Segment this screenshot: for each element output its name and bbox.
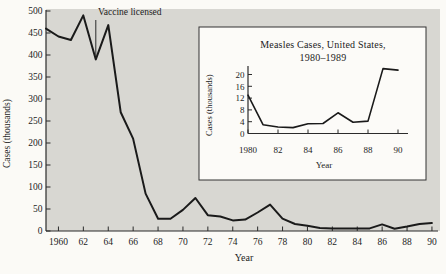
main-x-tick-label: 86	[377, 237, 387, 247]
inset-y-tick-label: 0	[240, 129, 245, 139]
inset-y-tick-label: 20	[236, 70, 246, 80]
main-y-tick-label: 200	[28, 138, 43, 148]
inset-x-tick-label: 88	[364, 145, 374, 155]
main-y-tick-label: 500	[28, 6, 43, 16]
main-y-tick-label: 100	[28, 182, 43, 192]
inset-y-axis-title: Cases (thousands)	[204, 74, 214, 136]
main-x-tick-label: 80	[303, 237, 313, 247]
inset-chart-subtitle: 1980–1989	[300, 52, 347, 63]
inset-x-tick-label: 1980	[239, 145, 258, 155]
main-y-tick-label: 300	[28, 94, 43, 104]
main-y-tick-label: 250	[28, 116, 43, 126]
main-y-tick-label: 450	[28, 28, 43, 38]
main-x-tick-label: 78	[278, 237, 288, 247]
main-x-tick-label: 68	[153, 237, 163, 247]
main-y-tick-label: 350	[28, 72, 43, 82]
main-x-tick-label: 90	[427, 237, 437, 247]
main-y-tick-label: 0	[38, 226, 43, 236]
measles-cases-figure: 1960626466687072747678808284868890050100…	[0, 0, 446, 274]
vaccine-licensed-annotation: Vaccine licensed	[98, 7, 162, 17]
main-x-tick-label: 88	[402, 237, 412, 247]
main-x-tick-label: 76	[253, 237, 263, 247]
inset-y-tick-label: 16	[236, 82, 246, 92]
main-y-axis-title: Cases (thousands)	[2, 99, 12, 168]
main-x-tick-label: 70	[178, 237, 188, 247]
main-x-tick-label: 74	[228, 237, 238, 247]
main-x-tick-label: 66	[128, 237, 138, 247]
main-y-tick-label: 150	[28, 160, 43, 170]
main-x-tick-label: 64	[104, 237, 114, 247]
inset-x-tick-label: 90	[394, 145, 404, 155]
inset-x-tick-label: 84	[304, 145, 314, 155]
inset-x-tick-label: 82	[274, 145, 283, 155]
main-y-tick-label: 400	[28, 50, 43, 60]
main-x-tick-label: 72	[203, 237, 213, 247]
main-x-axis-title: Year	[235, 252, 253, 263]
inset-x-tick-label: 86	[334, 145, 344, 155]
inset-y-tick-label: 8	[240, 105, 245, 115]
main-x-tick-label: 1960	[49, 237, 68, 247]
main-x-tick-label: 82	[328, 237, 338, 247]
inset-x-axis-title: Year	[316, 160, 333, 170]
main-x-tick-label: 62	[79, 237, 89, 247]
main-x-tick-label: 84	[353, 237, 363, 247]
inset-chart-title: Measles Cases, United States,	[260, 39, 386, 50]
inset-y-tick-label: 4	[240, 117, 245, 127]
inset-y-tick-label: 12	[236, 93, 245, 103]
main-y-tick-label: 50	[33, 204, 43, 214]
